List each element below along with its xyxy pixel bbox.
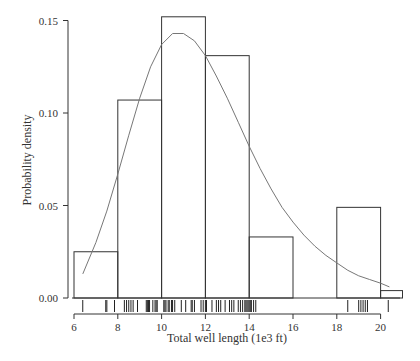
- histogram-bar: [162, 17, 206, 298]
- x-tick-label: 8: [115, 321, 121, 333]
- x-tick-label: 10: [156, 321, 168, 333]
- y-tick-label: 0.10: [39, 107, 59, 119]
- histogram-bars: [74, 17, 403, 298]
- x-tick-label: 16: [288, 321, 300, 333]
- y-tick-label: 0.05: [39, 200, 59, 212]
- x-tick-label: 18: [331, 321, 343, 333]
- histogram-bar: [118, 100, 162, 298]
- y-tick-label: 0.15: [39, 15, 59, 27]
- histogram-chart: 0.000.050.100.15 68101214161820 Probabil…: [0, 0, 420, 361]
- histogram-bar: [337, 207, 381, 298]
- density-curve: [83, 34, 390, 287]
- x-axis-title: Total well length (1e3 ft): [167, 331, 287, 345]
- y-axis: 0.000.050.100.15: [39, 15, 68, 305]
- histogram-bar: [205, 56, 249, 298]
- histogram-bar: [381, 291, 403, 298]
- x-axis: 68101214161820: [71, 298, 400, 333]
- x-tick-label: 6: [71, 321, 77, 333]
- y-axis-title: Probability density: [20, 115, 34, 206]
- histogram-bar: [249, 237, 293, 298]
- x-tick-label: 20: [375, 321, 387, 333]
- histogram-bar: [74, 252, 118, 298]
- y-tick-label: 0.00: [39, 292, 59, 304]
- rug-plot: [83, 300, 389, 312]
